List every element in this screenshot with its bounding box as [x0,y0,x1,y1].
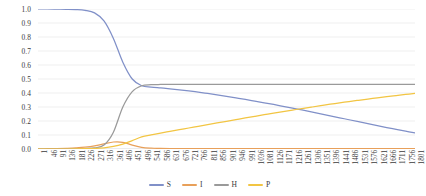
x-axis-tick-label: 946 [239,150,247,161]
x-axis-tick-label: 1126 [277,150,285,164]
x-axis-tick-label: 181 [79,150,87,161]
y-axis-tick-label: 0.8 [21,33,31,42]
x-axis-tick-label: 1081 [267,150,275,164]
x-axis-tick-label: 91 [60,150,68,157]
legend-swatch-icon [182,184,197,186]
y-axis-tick-label: 0.3 [21,103,31,112]
y-axis-tick-label: 1.0 [21,5,31,14]
x-axis-tick-label: 1576 [371,150,379,164]
x-axis-tick-label: 1 [41,150,49,154]
legend-label: S [167,181,171,189]
x-axis-tick-label: 1756 [409,150,417,164]
y-axis-tick-label: 0.4 [21,89,31,98]
x-axis-tick-label: 406 [126,150,134,161]
plot-area [38,9,415,149]
line-chart-svg [38,9,415,149]
x-axis-tick-label: 1441 [343,150,351,164]
y-axis-tick-label: 0.6 [21,61,31,70]
x-axis-tick-label: 271 [98,150,106,161]
chart-legend: SIHP [0,178,419,192]
x-axis-tick-label: 991 [249,150,257,161]
x-axis-tick-label: 1396 [333,150,341,164]
legend-label: P [266,181,270,189]
y-axis: 0.00.10.20.30.40.50.60.70.80.91.0 [0,9,34,149]
y-axis-tick-label: 0.2 [21,117,31,126]
x-axis-tick-label: 46 [51,150,59,157]
x-axis-tick-label: 676 [183,150,191,161]
y-axis-tick-label: 0.7 [21,47,31,56]
legend-label: I [200,181,203,189]
x-axis-tick-label: 811 [211,150,219,161]
y-axis-tick-label: 0.5 [21,75,31,84]
legend-swatch-icon [248,184,263,186]
x-axis-tick-label: 1351 [324,150,332,164]
x-axis-tick-label: 1261 [305,150,313,164]
x-axis-tick-label: 361 [117,150,125,161]
x-axis-tick-label: 856 [220,150,228,161]
x-axis-tick-label: 1486 [352,150,360,164]
x-axis-tick-label: 1666 [390,150,398,164]
y-axis-tick-label: 0.1 [21,131,31,140]
x-axis-tick-label: 1306 [315,150,323,164]
legend-item-i[interactable]: I [182,181,203,189]
x-axis-tick-label: 1171 [286,150,294,164]
y-axis-tick-label: 0.0 [21,145,31,154]
x-axis-tick-label: 1216 [296,150,304,164]
x-axis-tick-label: 631 [173,150,181,161]
x-axis-tick-label: 136 [69,150,77,161]
x-axis-tick-label: 541 [154,150,162,161]
legend-swatch-icon [149,184,164,186]
y-axis-tick-label: 0.9 [21,19,31,28]
x-axis-tick-label: 1711 [399,150,407,164]
series-line-h [38,84,415,149]
x-axis-tick-label: 1036 [258,150,266,164]
legend-item-h[interactable]: H [214,181,237,189]
x-axis-tick-label: 1531 [362,150,370,164]
x-axis-tick-label: 1801 [418,150,426,164]
x-axis: 1469113618122627131636140645149654158663… [38,150,415,180]
x-axis-tick-label: 586 [164,150,172,161]
x-axis-tick-label: 766 [201,150,209,161]
x-axis-tick-label: 496 [145,150,153,161]
series-line-s [38,9,415,133]
x-axis-tick-label: 901 [230,150,238,161]
x-axis-tick-label: 226 [88,150,96,161]
x-axis-tick-label: 316 [107,150,115,161]
x-axis-tick-label: 451 [135,150,143,161]
legend-item-s[interactable]: S [149,181,171,189]
legend-item-p[interactable]: P [248,181,270,189]
x-axis-tick-label: 721 [192,150,200,161]
legend-label: H [232,181,237,189]
legend-swatch-icon [214,184,229,186]
x-axis-tick-label: 1621 [381,150,389,164]
